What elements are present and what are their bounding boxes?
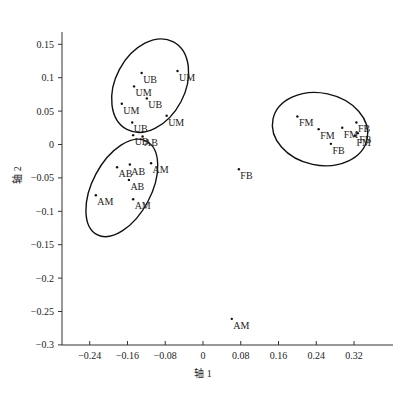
point-label: UB (148, 99, 162, 110)
point-label: UM (136, 87, 152, 98)
data-point: UB (140, 72, 157, 85)
data-point: UM (121, 103, 140, 116)
data-points: UBUMUMUBUMUMUBUBABABABAMABAMAMFBAMFMFMFB… (95, 70, 372, 331)
point-label: UM (179, 72, 195, 83)
data-point: FB (238, 168, 253, 181)
x-tick-label: 0 (201, 350, 206, 361)
data-point: UB (131, 121, 148, 134)
point-label: AM (233, 320, 249, 331)
point-label: AM (153, 164, 169, 175)
y-tick-label: −0.05 (31, 172, 54, 183)
y-tick-label: 0.1 (42, 72, 55, 83)
point-label: FM (356, 137, 371, 148)
y-tick-label: −0.3 (36, 339, 54, 350)
data-point: FM (296, 115, 313, 128)
y-axis-title: 轴 2 (11, 166, 23, 184)
point-label: UB (143, 74, 157, 85)
point-label: FB (240, 170, 253, 181)
y-tick-label: −0.2 (36, 273, 54, 284)
data-point: UM (133, 85, 152, 98)
x-axis-title: 轴 1 (194, 367, 212, 379)
data-point: AB (129, 163, 146, 176)
y-tick-label: −0.15 (31, 239, 54, 250)
data-point: AB (128, 179, 145, 192)
point-label: UB (134, 123, 148, 134)
data-point: UM (176, 70, 195, 83)
x-tick-label: 0.32 (345, 350, 363, 361)
data-point: AB (116, 166, 133, 179)
point-label: AB (144, 137, 158, 148)
y-tick-label: −0.25 (31, 306, 54, 317)
data-point: FM (317, 128, 334, 141)
data-point: FB (330, 143, 345, 156)
point-label: FB (358, 123, 371, 134)
point-label: AB (131, 166, 145, 177)
point-label: AM (97, 196, 113, 207)
data-point: FM (354, 135, 371, 148)
point-label: FB (332, 145, 345, 156)
x-axis-ticks: −0.24−0.16−0.0800.080.160.240.32 (78, 341, 363, 361)
x-tick-label: 0.16 (270, 350, 288, 361)
data-point: AB (141, 135, 158, 148)
cluster-ellipse (96, 26, 204, 146)
data-point: AM (150, 162, 169, 175)
y-tick-label: 0.05 (37, 106, 55, 117)
data-point: UM (165, 115, 184, 128)
axes: 0.150.10.050−0.05−0.1−0.15−0.2−0.25−0.3 … (31, 32, 393, 361)
data-point: UB (146, 97, 163, 110)
scatter-chart: 0.150.10.050−0.05−0.1−0.15−0.2−0.25−0.3 … (0, 0, 409, 395)
x-tick-label: −0.24 (78, 350, 101, 361)
y-tick-label: 0.15 (37, 39, 55, 50)
y-tick-label: 0 (49, 139, 54, 150)
point-label: UM (123, 105, 139, 116)
x-tick-label: 0.24 (308, 350, 326, 361)
point-label: AB (130, 181, 144, 192)
point-label: AM (135, 200, 151, 211)
point-label: FM (299, 117, 314, 128)
point-label: FM (320, 130, 335, 141)
x-tick-label: −0.16 (116, 350, 139, 361)
data-point: AM (95, 194, 114, 207)
x-tick-label: −0.08 (154, 350, 177, 361)
point-label: UM (168, 117, 184, 128)
y-axis-ticks: 0.150.10.050−0.05−0.1−0.15−0.2−0.25−0.3 (31, 39, 62, 351)
data-point: AM (231, 318, 250, 331)
data-point: AM (132, 198, 151, 211)
y-tick-label: −0.1 (36, 206, 54, 217)
x-tick-label: 0.08 (232, 350, 250, 361)
